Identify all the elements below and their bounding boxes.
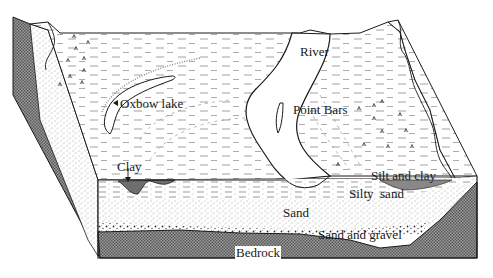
label-bedrock: Bedrock <box>235 246 281 259</box>
floodplain-block-diagram: River Oxbow lake Point Bars Clay Silt an… <box>0 0 493 278</box>
label-river: River <box>300 45 329 58</box>
label-silty-sand: Silty sand <box>349 187 404 200</box>
label-silt-and-clay: Silt and clay <box>371 169 436 182</box>
label-point-bars: Point Bars <box>293 103 348 116</box>
diagram-drawing <box>0 0 493 278</box>
label-sand-and-gravel: Sand and gravel <box>318 228 402 241</box>
label-clay: Clay <box>117 160 142 173</box>
floodplain-surface <box>30 22 455 180</box>
label-sand: Sand <box>283 206 309 219</box>
label-oxbow-lake: Oxbow lake <box>120 97 183 110</box>
